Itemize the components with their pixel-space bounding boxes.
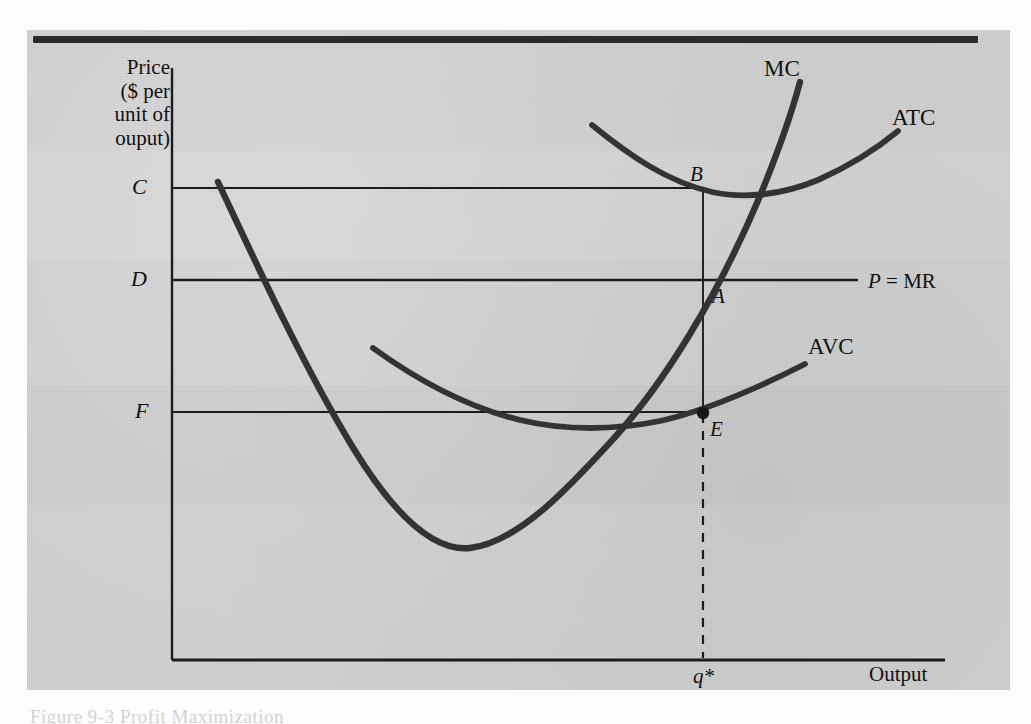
y-axis-title: Price ($ per unit of ouput) <box>96 56 170 150</box>
caption-fragment: Figure 9-3 Profit Maximization <box>30 706 970 724</box>
y-tick-c: C <box>132 175 147 200</box>
x-axis-title: Output <box>869 663 927 687</box>
avc-curve <box>373 348 805 428</box>
point-label-a: A <box>712 285 725 309</box>
price-symbol: P <box>868 269 881 293</box>
price-mr-label: P = MR <box>868 270 936 294</box>
atc-curve-label: ATC <box>892 105 935 131</box>
mc-curve-label: MC <box>764 56 800 82</box>
y-tick-d: D <box>131 267 147 292</box>
point-e-marker <box>697 407 709 419</box>
avc-curve-label: AVC <box>808 334 854 360</box>
x-tick-qstar: q* <box>693 665 714 689</box>
mc-curve <box>218 82 800 548</box>
price-equals-mr: = MR <box>881 269 936 293</box>
point-label-b: B <box>690 163 703 187</box>
figure-page: Price ($ per unit of ouput) C D F MC ATC… <box>0 0 1031 724</box>
point-label-e: E <box>710 418 723 442</box>
y-tick-f: F <box>135 399 148 424</box>
atc-curve <box>592 125 898 195</box>
